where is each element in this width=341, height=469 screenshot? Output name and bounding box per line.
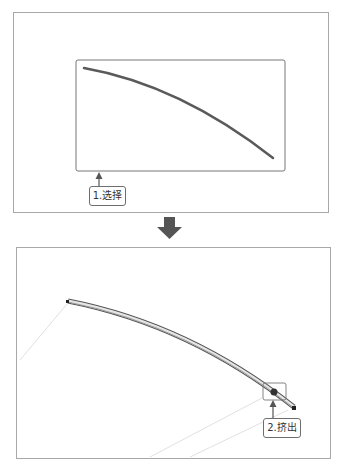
selection-rectangle	[76, 60, 285, 171]
callout-1-arrowhead-icon	[96, 172, 103, 179]
callout-step-2: 2.挤出	[263, 418, 301, 438]
guide-line	[20, 304, 67, 360]
callout-2-arrowhead-icon	[270, 400, 277, 407]
diagram-graphics	[0, 0, 341, 469]
sketch-curve	[84, 68, 273, 158]
guide-line	[150, 398, 262, 457]
extruded-tube	[66, 300, 296, 410]
down-arrow-icon	[157, 217, 182, 239]
extrude-handle-icon	[271, 389, 278, 396]
callout-step-1: 1.选择	[89, 186, 126, 206]
